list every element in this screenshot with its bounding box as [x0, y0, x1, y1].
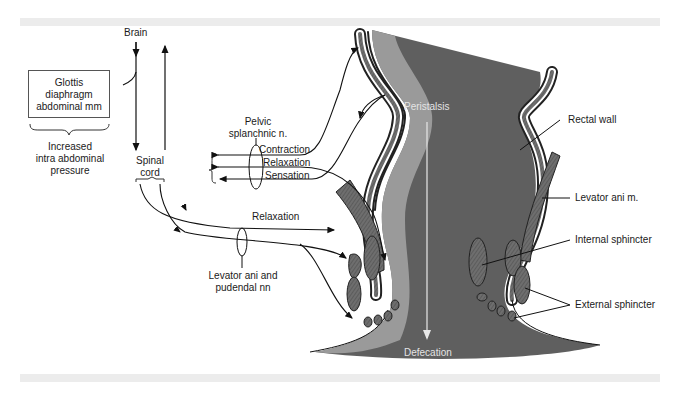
- muscle-group-box: Glottis diaphragm abdominal mm: [28, 70, 110, 118]
- label-sensation: Sensation: [265, 170, 309, 182]
- pudendal-nerve-low: [300, 244, 352, 318]
- label-relaxation-pudendal: Relaxation: [252, 211, 299, 223]
- box-line-1: Glottis: [29, 77, 109, 89]
- label-relaxation-pelvic: Relaxation: [263, 157, 310, 169]
- branch-to-box: [123, 72, 136, 85]
- pudendal-nerve-top: [140, 184, 334, 230]
- box-line-2: diaphragm: [29, 89, 109, 101]
- leader-external-sphincter-1: [525, 288, 570, 305]
- label-levator-ani-m: Levator ani m.: [575, 192, 638, 204]
- leader-external-sphincter-2: [514, 305, 570, 318]
- label-spinal-cord: Spinal cord: [130, 155, 170, 179]
- box-line-3: abdominal mm: [29, 101, 109, 113]
- label-contraction: Contraction: [259, 144, 310, 156]
- pressure-brace: [30, 124, 109, 135]
- label-brain: Brain: [124, 27, 147, 39]
- internal-sphincter-left: [364, 236, 380, 280]
- label-levator-pudendal-nn: Levator ani and pudendal nn: [200, 270, 286, 294]
- label-pelvic-splanchnic: Pelvic splanchnic n.: [228, 116, 288, 140]
- pelvic-brace: [209, 154, 216, 183]
- label-defecation: Defecation: [404, 347, 452, 359]
- internal-sphincter-right: [469, 238, 487, 286]
- label-rectal-wall: Rectal wall: [568, 114, 616, 126]
- label-peristalsis: Peristalsis: [404, 101, 450, 113]
- label-internal-sphincter: Internal sphincter: [575, 234, 652, 246]
- pudendal-nerve-bundle: [237, 228, 247, 256]
- label-external-sphincter: External sphincter: [575, 299, 655, 311]
- label-increased-pressure: Increased intra abdominal pressure: [30, 141, 110, 177]
